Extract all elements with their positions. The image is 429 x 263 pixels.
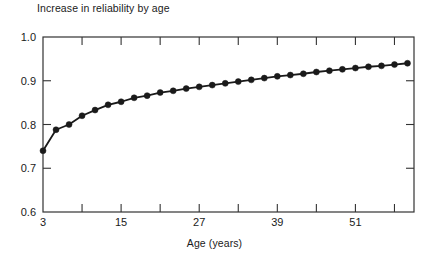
data-point-marker <box>235 79 241 85</box>
data-point-marker <box>313 69 319 75</box>
data-point-marker <box>105 102 111 108</box>
data-point-marker <box>183 86 189 92</box>
data-point-marker <box>144 93 150 99</box>
data-point-marker <box>248 77 254 83</box>
data-point-marker <box>40 148 46 154</box>
data-point-marker <box>404 60 410 66</box>
data-point-marker <box>196 84 202 90</box>
chart-figure: Increase in reliability by age 0.60.70.8… <box>0 0 429 263</box>
x-axis-tick-label: 39 <box>271 216 283 228</box>
data-point-marker <box>352 65 358 71</box>
data-point-marker <box>300 71 306 77</box>
data-point-marker <box>378 63 384 69</box>
data-point-marker <box>79 113 85 119</box>
data-point-marker <box>131 95 137 101</box>
x-axis-tick-label: 51 <box>349 216 361 228</box>
data-point-marker <box>274 73 280 79</box>
data-point-marker <box>326 68 332 74</box>
plot-canvas <box>0 0 429 263</box>
data-point-marker <box>66 122 72 128</box>
data-point-marker <box>222 80 228 86</box>
data-point-marker <box>209 82 215 88</box>
data-point-marker <box>261 75 267 81</box>
data-point-marker <box>53 127 59 133</box>
data-point-marker <box>287 72 293 78</box>
x-axis-title: Age (years) <box>0 237 429 249</box>
data-point-marker <box>118 99 124 105</box>
data-point-marker <box>391 62 397 68</box>
data-point-marker <box>339 66 345 72</box>
plot-border <box>43 37 414 212</box>
x-axis-tick-label: 27 <box>193 216 205 228</box>
x-axis-tick-label: 3 <box>40 216 46 228</box>
data-point-marker <box>170 88 176 94</box>
data-point-marker <box>365 64 371 70</box>
data-point-marker <box>157 90 163 96</box>
data-point-marker <box>92 107 98 113</box>
series-line <box>43 63 407 151</box>
x-axis-tick-label: 15 <box>115 216 127 228</box>
